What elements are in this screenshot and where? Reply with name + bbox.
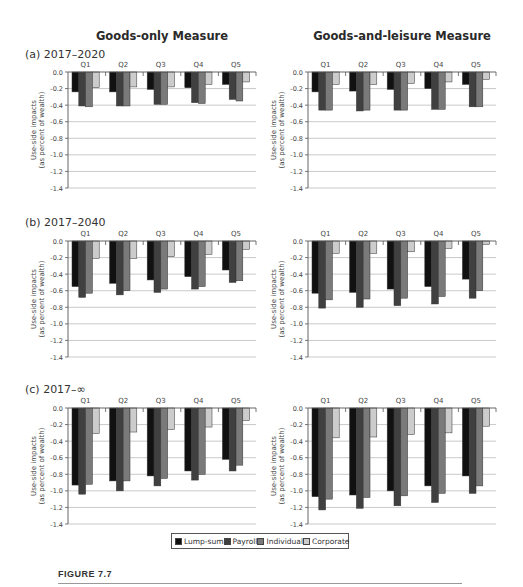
svg-text:Q5: Q5	[471, 230, 481, 238]
svg-text:Q1: Q1	[81, 230, 91, 238]
svg-text:Q1: Q1	[321, 61, 331, 69]
svg-text:Q1: Q1	[81, 397, 91, 405]
svg-text:Q3: Q3	[396, 397, 406, 405]
svg-text:-1.4: -1.4	[50, 354, 63, 362]
svg-text:-0.6: -0.6	[290, 287, 303, 295]
figure-label: FIGURE 7.7	[58, 569, 112, 579]
column-title-goods-and-leisure: Goods-and-leisure Measure	[282, 29, 522, 43]
legend-label: Corporate	[312, 537, 350, 546]
svg-text:Q1: Q1	[81, 61, 91, 69]
svg-text:Q1: Q1	[321, 397, 331, 405]
svg-text:-0.6: -0.6	[290, 454, 303, 462]
legend-item-lump-sum: Lump-sum	[175, 537, 224, 546]
chart-b-goods-and-leisure: 0.0-0.2-0.4-0.6-0.8-1.0-1.2-1.4Use-side …	[240, 226, 500, 370]
svg-text:Q2: Q2	[358, 230, 368, 238]
svg-text:-0.4: -0.4	[50, 102, 63, 110]
svg-text:-0.6: -0.6	[290, 118, 303, 126]
svg-text:-1.0: -1.0	[50, 151, 63, 159]
svg-text:0.0: 0.0	[53, 405, 63, 413]
figure-rule-divider	[58, 583, 462, 584]
svg-text:Use-side impacts(as percent of: Use-side impacts(as percent of wealth)	[30, 427, 46, 504]
svg-text:-1.2: -1.2	[50, 337, 63, 345]
svg-text:-0.8: -0.8	[50, 304, 63, 312]
svg-text:Q2: Q2	[118, 397, 128, 405]
svg-text:Q3: Q3	[396, 230, 406, 238]
legend-swatch-icon	[303, 538, 310, 545]
svg-text:Q4: Q4	[433, 61, 444, 69]
svg-text:Q4: Q4	[433, 230, 444, 238]
svg-text:-0.2: -0.2	[290, 85, 303, 93]
svg-text:0.0: 0.0	[53, 69, 63, 77]
svg-text:Use-side impacts(as percent of: Use-side impacts(as percent of wealth)	[270, 260, 286, 337]
svg-text:0.0: 0.0	[53, 238, 63, 246]
svg-text:-1.0: -1.0	[290, 320, 303, 328]
svg-text:Q3: Q3	[156, 61, 166, 69]
svg-text:Use-side impacts(as percent of: Use-side impacts(as percent of wealth)	[30, 91, 46, 168]
svg-text:-1.2: -1.2	[290, 168, 303, 176]
legend-label: Individual	[266, 537, 303, 546]
svg-text:-0.2: -0.2	[290, 421, 303, 429]
svg-text:-0.8: -0.8	[50, 471, 63, 479]
svg-text:Q5: Q5	[471, 397, 481, 405]
svg-text:Q4: Q4	[193, 230, 204, 238]
svg-text:-0.6: -0.6	[50, 118, 63, 126]
svg-text:-0.4: -0.4	[50, 271, 63, 279]
svg-text:Q3: Q3	[396, 61, 406, 69]
svg-text:-0.8: -0.8	[290, 471, 303, 479]
legend-label: Payroll	[233, 537, 258, 546]
svg-text:-1.4: -1.4	[290, 185, 303, 193]
legend-swatch-icon	[175, 538, 182, 545]
svg-text:-1.0: -1.0	[290, 151, 303, 159]
column-title-goods-only: Goods-only Measure	[42, 29, 282, 43]
svg-text:Q4: Q4	[193, 61, 204, 69]
svg-text:Q4: Q4	[433, 397, 444, 405]
chart-a-goods-and-leisure: 0.0-0.2-0.4-0.6-0.8-1.0-1.2-1.4Use-side …	[240, 57, 500, 201]
svg-text:Use-side impacts(as percent of: Use-side impacts(as percent of wealth)	[30, 260, 46, 337]
svg-text:Q2: Q2	[118, 230, 128, 238]
chart-c-goods-and-leisure: 0.0-0.2-0.4-0.6-0.8-1.0-1.2-1.4Use-side …	[240, 393, 500, 537]
svg-text:-0.8: -0.8	[50, 135, 63, 143]
svg-text:Use-side impacts(as percent of: Use-side impacts(as percent of wealth)	[270, 427, 286, 504]
svg-text:-0.8: -0.8	[290, 135, 303, 143]
svg-text:-1.0: -1.0	[290, 487, 303, 495]
svg-text:-1.2: -1.2	[290, 337, 303, 345]
svg-text:Q2: Q2	[358, 397, 368, 405]
svg-text:Q4: Q4	[193, 397, 204, 405]
svg-text:-0.4: -0.4	[290, 271, 303, 279]
svg-text:-1.2: -1.2	[50, 168, 63, 176]
svg-text:-0.4: -0.4	[290, 102, 303, 110]
chart-b-goods-only: 0.0-0.2-0.4-0.6-0.8-1.0-1.2-1.4Use-side …	[0, 226, 260, 370]
legend-item-payroll: Payroll	[224, 537, 258, 546]
svg-text:Q2: Q2	[358, 61, 368, 69]
svg-text:Q5: Q5	[471, 61, 481, 69]
svg-text:Q3: Q3	[156, 230, 166, 238]
svg-text:-0.4: -0.4	[50, 438, 63, 446]
svg-text:-1.4: -1.4	[290, 354, 303, 362]
chart-legend: Lump-sum Payroll Individual Corporate	[171, 533, 349, 549]
svg-text:Use-side impacts(as percent of: Use-side impacts(as percent of wealth)	[270, 91, 286, 168]
svg-text:0.0: 0.0	[293, 238, 303, 246]
svg-text:-0.2: -0.2	[50, 254, 63, 262]
svg-text:-1.0: -1.0	[50, 487, 63, 495]
svg-text:-1.4: -1.4	[50, 521, 63, 529]
svg-text:-1.2: -1.2	[290, 504, 303, 512]
svg-text:-0.2: -0.2	[50, 421, 63, 429]
svg-text:0.0: 0.0	[293, 405, 303, 413]
legend-item-individual: Individual	[257, 537, 303, 546]
legend-label: Lump-sum	[184, 537, 224, 546]
svg-text:-1.4: -1.4	[50, 185, 63, 193]
svg-text:-0.8: -0.8	[290, 304, 303, 312]
svg-text:Q1: Q1	[321, 230, 331, 238]
svg-text:-0.4: -0.4	[290, 438, 303, 446]
svg-text:-1.0: -1.0	[50, 320, 63, 328]
svg-text:-0.2: -0.2	[290, 254, 303, 262]
svg-text:0.0: 0.0	[293, 69, 303, 77]
chart-c-goods-only: 0.0-0.2-0.4-0.6-0.8-1.0-1.2-1.4Use-side …	[0, 393, 260, 537]
legend-swatch-icon	[257, 538, 264, 545]
legend-item-corporate: Corporate	[303, 537, 350, 546]
legend-swatch-icon	[224, 538, 231, 545]
svg-text:Q3: Q3	[156, 397, 166, 405]
svg-text:Q2: Q2	[118, 61, 128, 69]
svg-text:-1.4: -1.4	[290, 521, 303, 529]
svg-text:-1.2: -1.2	[50, 504, 63, 512]
